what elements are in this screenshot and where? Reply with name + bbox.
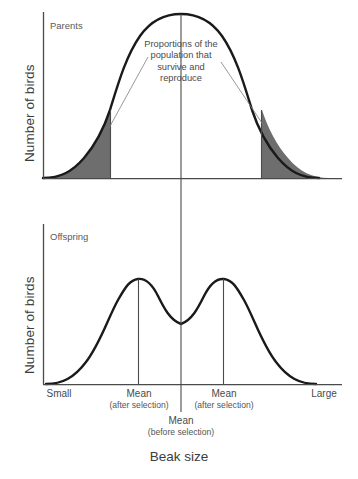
selection-callout-annotation: Proportions of the population that survi… bbox=[121, 39, 241, 85]
shaded-right-tail bbox=[262, 110, 329, 178]
callout-line-2: population that bbox=[151, 50, 212, 60]
disruptive-selection-figure: Number of birds Number of birds Parents … bbox=[0, 0, 358, 479]
tick-label-mean-after-selection-right: Mean (after selection) bbox=[194, 388, 253, 410]
tick-label-mean-center-sub: (before selection) bbox=[148, 427, 214, 437]
tick-label-mean-after-selection-left: Mean (after selection) bbox=[109, 388, 168, 410]
shaded-left-tail bbox=[43, 110, 110, 178]
tick-label-small: Small bbox=[46, 388, 71, 399]
tick-label-mean-left-main: Mean bbox=[126, 388, 151, 399]
tick-label-mean-center-main: Mean bbox=[168, 415, 193, 426]
callout-line-3: survive and bbox=[157, 62, 205, 72]
tick-label-mean-right-sub: (after selection) bbox=[194, 400, 253, 410]
y-axis-title-bottom: Number of birds bbox=[22, 276, 37, 374]
x-axis-title: Beak size bbox=[0, 449, 358, 464]
tick-label-mean-left-sub: (after selection) bbox=[109, 400, 168, 410]
panel-label-offspring: Offspring bbox=[50, 231, 88, 242]
tick-label-mean-right-main: Mean bbox=[211, 388, 236, 399]
callout-line-4: reproduce bbox=[160, 73, 202, 83]
panel-label-parents: Parents bbox=[50, 20, 83, 31]
tick-label-mean-before-selection: Mean (before selection) bbox=[148, 415, 214, 437]
callout-line-1: Proportions of the bbox=[144, 39, 217, 49]
tick-label-large: Large bbox=[311, 388, 337, 399]
y-axis-title-top: Number of birds bbox=[22, 64, 37, 162]
